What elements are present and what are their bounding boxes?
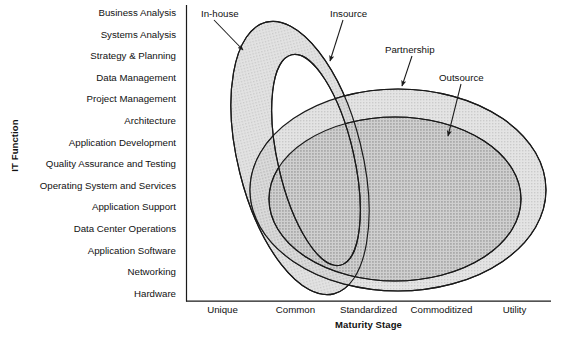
y-axis-tick-labels: Business Analysis Systems Analysis Strat… (26, 7, 181, 299)
x-tick-label: Unique (186, 304, 259, 316)
y-tick-label: Application Support (26, 201, 181, 212)
x-tick-label: Commoditized (405, 304, 478, 316)
y-tick-label: Application Development (26, 137, 181, 148)
partnership-leader-arrow (402, 56, 412, 86)
y-tick-label: Business Analysis (26, 7, 181, 18)
y-tick-label: Systems Analysis (26, 29, 181, 40)
x-tick-label: Common (259, 304, 332, 316)
y-tick-label: Data Center Operations (26, 223, 181, 234)
y-tick-label: Application Software (26, 245, 181, 256)
y-tick-label: Hardware (26, 288, 181, 299)
callout-label-in-house: In-house (201, 8, 239, 19)
y-tick-label: Quality Assurance and Testing (26, 158, 181, 169)
y-tick-label: Project Management (26, 93, 181, 104)
callout-label-partnership: Partnership (385, 44, 435, 55)
callout-label-insource: Insource (330, 8, 367, 19)
y-tick-label: Operating System and Services (26, 180, 181, 191)
y-tick-label: Data Management (26, 72, 181, 83)
x-axis-tick-labels: Unique Common Standardized Commoditized … (186, 304, 551, 316)
diagram-figure: IT Function Business Analysis Systems An… (0, 0, 561, 344)
x-tick-label: Standardized (332, 304, 405, 316)
x-axis-title: Maturity Stage (186, 319, 551, 330)
in-house-leader-arrow (214, 20, 243, 50)
insource-leader-arrow (330, 20, 343, 61)
y-axis-title: IT Function (9, 101, 20, 191)
y-tick-label: Strategy & Planning (26, 50, 181, 61)
callout-label-outsource: Outsource (439, 72, 484, 83)
y-tick-label: Architecture (26, 115, 181, 126)
x-tick-label: Utility (478, 304, 551, 316)
y-tick-label: Networking (26, 266, 181, 277)
